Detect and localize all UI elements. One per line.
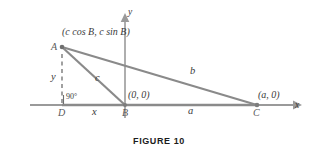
vertex-label-D: D: [58, 108, 65, 118]
coordinate-label-C: (a, 0): [258, 90, 280, 100]
y-axis-label: y: [128, 8, 132, 18]
segment-label-a: a: [188, 106, 193, 117]
triangle-diagram: [0, 0, 318, 154]
segment-b-line: [62, 47, 257, 105]
right-angle-label: 90°: [66, 93, 77, 101]
vertex-dot-A: [60, 45, 65, 50]
vertex-label-A: A: [51, 42, 57, 52]
x-axis-label: x: [295, 101, 299, 111]
segment-label-b: b: [190, 66, 195, 77]
figure-caption: FIGURE 10: [0, 136, 318, 146]
segment-label-c: c: [95, 73, 100, 84]
segment-label-x: x: [92, 107, 97, 118]
segment-label-y: y: [51, 72, 56, 83]
vertex-label-C: C: [253, 108, 260, 118]
vertex-label-B: B: [122, 108, 128, 118]
figure-container: A B C D a b c x y (c cos B, c sin B) (0,…: [0, 0, 318, 154]
coordinate-label-origin: (0, 0): [128, 90, 150, 100]
coordinate-label-A: (c cos B, c sin B): [62, 27, 130, 37]
